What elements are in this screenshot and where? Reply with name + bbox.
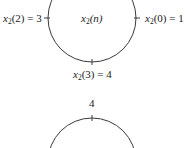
label-top-value: 4	[89, 97, 95, 109]
circular-sequence-diagram: x2(n) x2(0) = 1 x2(2) = 3 x2(3) = 4 4	[0, 0, 185, 148]
label-x2-2: x2(2) = 3	[2, 12, 42, 26]
circle-2: 4	[48, 97, 136, 148]
circle-2-outline	[48, 118, 136, 148]
label-x2-3: x2(3) = 4	[72, 68, 112, 82]
circle-1-outline	[48, 0, 136, 62]
circle-x2n: x2(n) x2(0) = 1 x2(2) = 3 x2(3) = 4	[2, 0, 184, 82]
center-label: x2(n)	[80, 12, 103, 26]
label-x2-0: x2(0) = 1	[144, 12, 184, 26]
